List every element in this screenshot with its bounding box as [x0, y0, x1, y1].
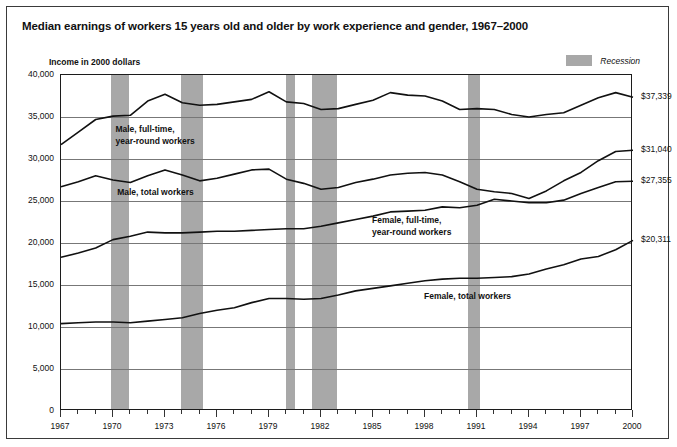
y-tick-label: 40,000	[28, 69, 54, 79]
series-line	[61, 240, 633, 323]
x-tick-label: 1994	[519, 421, 538, 431]
x-tick-minor	[337, 410, 338, 414]
chart-page: Median earnings of workers 15 years old …	[0, 0, 677, 447]
x-tick-minor	[199, 410, 200, 414]
x-tick-label: 1985	[363, 421, 382, 431]
annotation-male-total: Male, total workers	[117, 187, 194, 199]
x-tick-major	[164, 410, 165, 417]
legend: Recession	[566, 55, 640, 66]
x-tick-minor	[597, 410, 598, 414]
x-tick-minor	[147, 410, 148, 414]
x-tick-minor	[233, 410, 234, 414]
x-tick-minor	[95, 410, 96, 414]
x-tick-major	[632, 410, 633, 417]
x-tick-major	[476, 410, 477, 417]
x-tick-minor	[285, 410, 286, 414]
y-axis-labels: 05,00010,00015,00020,00025,00030,00035,0…	[0, 74, 54, 410]
end-value-label: $37,339	[641, 91, 672, 101]
x-tick-label: 1967	[51, 421, 70, 431]
x-tick-minor	[251, 410, 252, 414]
x-tick-minor	[441, 410, 442, 414]
x-tick-minor	[303, 410, 304, 414]
legend-label-recession: Recession	[600, 56, 640, 66]
y-tick-label: 5,000	[33, 363, 54, 373]
recession-swatch	[566, 55, 592, 66]
x-tick-label: 1973	[155, 421, 174, 431]
y-tick-label: 30,000	[28, 153, 54, 163]
end-value-label: $27,355	[641, 175, 672, 185]
x-tick-label: 1998	[415, 421, 434, 431]
x-tick-minor	[355, 410, 356, 414]
annotation-female-fulltime: Female, full-time, year-round workers	[372, 215, 451, 238]
x-tick-major	[580, 410, 581, 417]
y-tick-label: 35,000	[28, 111, 54, 121]
x-tick-minor	[77, 410, 78, 414]
x-tick-label: 2000	[623, 421, 642, 431]
x-tick-major	[320, 410, 321, 417]
x-tick-minor	[545, 410, 546, 414]
x-tick-minor	[129, 410, 130, 414]
end-value-label: $20,311	[641, 234, 671, 244]
x-tick-major	[528, 410, 529, 417]
x-tick-major	[268, 410, 269, 417]
y-tick-label: 25,000	[28, 195, 54, 205]
page-title: Median earnings of workers 15 years old …	[22, 20, 528, 32]
x-tick-minor	[181, 410, 182, 414]
x-tick-major	[372, 410, 373, 417]
x-tick-label: 1997	[571, 421, 590, 431]
x-tick-major	[112, 410, 113, 417]
annotation-male-fulltime: Male, full-time, year-round workers	[115, 124, 194, 147]
axis-subtitle: Income in 2000 dollars	[49, 57, 140, 67]
x-axis: 1967197019731976197919821985199819911994…	[60, 410, 632, 442]
x-tick-major	[424, 410, 425, 417]
x-tick-label: 1970	[103, 421, 122, 431]
x-tick-major	[60, 410, 61, 417]
annotation-female-total: Female, total workers	[424, 291, 511, 303]
y-tick-label: 15,000	[28, 279, 54, 289]
y-tick-label: 20,000	[28, 237, 54, 247]
x-tick-minor	[563, 410, 564, 414]
x-tick-label: 1979	[259, 421, 278, 431]
x-tick-major	[216, 410, 217, 417]
x-tick-minor	[615, 410, 616, 414]
x-tick-label: 1976	[207, 421, 226, 431]
y-tick-label: 0	[49, 405, 54, 415]
x-tick-label: 1991	[467, 421, 486, 431]
x-tick-minor	[407, 410, 408, 414]
y-tick-label: 10,000	[28, 321, 54, 331]
x-tick-minor	[459, 410, 460, 414]
x-tick-minor	[493, 410, 494, 414]
x-tick-minor	[511, 410, 512, 414]
x-tick-minor	[389, 410, 390, 414]
x-tick-label: 1982	[311, 421, 330, 431]
end-value-label: $31,040	[641, 144, 672, 154]
